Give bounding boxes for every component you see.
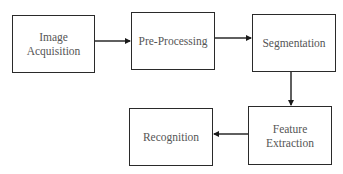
node-label: Image Acquisition: [27, 30, 81, 58]
node-label: Pre-Processing: [139, 34, 208, 48]
node-recognition: Recognition: [129, 108, 213, 166]
node-label: Feature Extraction: [266, 122, 314, 150]
node-label: Segmentation: [262, 36, 325, 50]
node-pre-processing: Pre-Processing: [131, 12, 215, 70]
flowchart-canvas: Image Acquisition Pre-Processing Segment…: [0, 0, 343, 174]
node-image-acquisition: Image Acquisition: [12, 15, 95, 73]
node-feature-extraction: Feature Extraction: [248, 106, 332, 165]
node-segmentation: Segmentation: [252, 14, 336, 72]
node-label: Recognition: [143, 130, 199, 144]
